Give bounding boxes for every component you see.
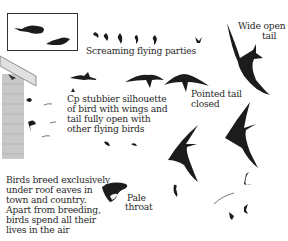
swift-silhouette-icon bbox=[227, 23, 270, 95]
swift-silhouette-icon bbox=[104, 142, 110, 147]
swift-silhouette-icon bbox=[229, 212, 234, 220]
swift-silhouette-icon bbox=[70, 72, 96, 80]
swift-silhouette-icon bbox=[104, 33, 109, 41]
swift-silhouette-icon bbox=[153, 35, 157, 45]
swift-silhouette-icon bbox=[28, 120, 36, 132]
swift-silhouettes bbox=[0, 0, 288, 241]
swift-head-icon bbox=[102, 183, 127, 202]
swift-silhouette-icon bbox=[195, 37, 202, 43]
swift-silhouette-icon bbox=[168, 125, 198, 182]
swift-silhouette-icon bbox=[225, 102, 258, 168]
swift-silhouette-icon bbox=[244, 172, 252, 185]
swift-silhouette-icon bbox=[173, 185, 177, 197]
swift-silhouette-icon bbox=[244, 204, 248, 214]
swift-silhouette-icon bbox=[135, 35, 139, 44]
swift-silhouette-icon bbox=[118, 33, 123, 44]
swift-silhouette-icon bbox=[131, 143, 137, 146]
swift-silhouette-icon bbox=[125, 75, 164, 88]
swift-silhouette-icon bbox=[164, 74, 209, 92]
swift-silhouette-icon bbox=[93, 32, 99, 38]
swift-silhouette-icon bbox=[26, 98, 32, 102]
